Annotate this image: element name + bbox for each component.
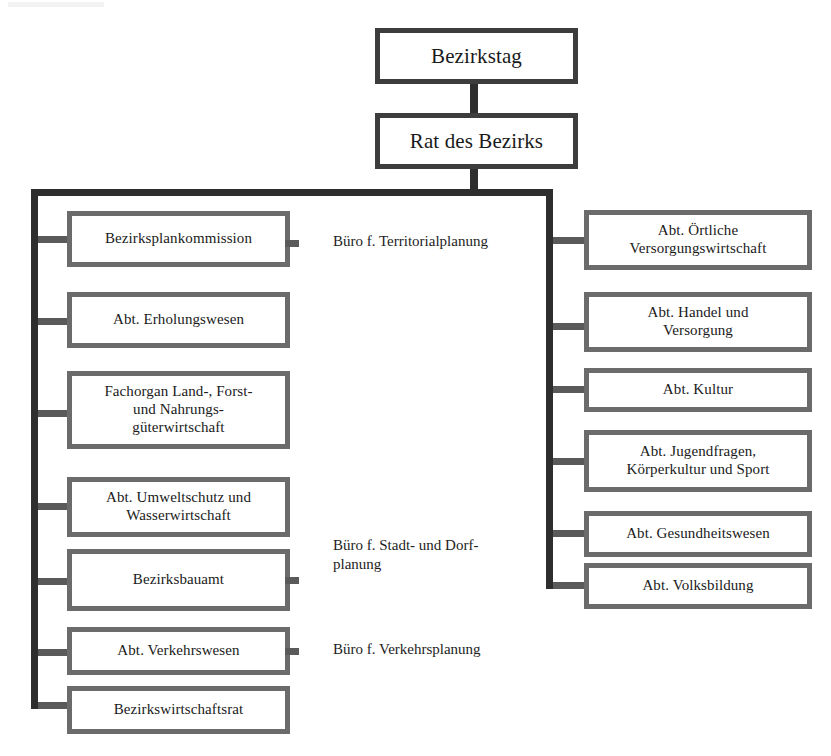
node-abt-erholungswesen[interactable]: Abt. Erholungswesen xyxy=(67,292,290,348)
node-abt-oertliche-versorgungswirtschaft[interactable]: Abt. Örtliche Versorgungswirtschaft xyxy=(584,210,812,270)
node-fachorgan-land-forst[interactable]: Fachorgan Land-, Forst- und Nahrungs- gü… xyxy=(67,371,290,449)
connector-left-3 xyxy=(38,410,70,417)
bus-horizontal xyxy=(31,189,553,196)
node-rat-des-bezirks-label: Rat des Bezirks xyxy=(404,129,549,154)
node-abt-oertliche-versorgungswirtschaft-label: Abt. Örtliche Versorgungswirtschaft xyxy=(624,222,773,257)
node-abt-volksbildung[interactable]: Abt. Volksbildung xyxy=(584,563,812,609)
org-chart-canvas: Bezirkstag Rat des Bezirks Bezirksplanko… xyxy=(0,0,831,756)
connector-right-6 xyxy=(553,582,585,589)
label-buero-verkehrsplanung: Büro f. Verkehrsplanung xyxy=(333,640,543,659)
connector-right-3 xyxy=(553,386,585,393)
connector-bezirkstag-to-rat xyxy=(470,84,478,114)
node-abt-volksbildung-label: Abt. Volksbildung xyxy=(636,577,759,595)
node-abt-gesundheitswesen-label: Abt. Gesundheitswesen xyxy=(620,525,776,543)
node-abt-verkehrswesen[interactable]: Abt. Verkehrswesen xyxy=(67,627,290,675)
connector-stub-stadtplanung xyxy=(285,577,299,584)
connector-right-1 xyxy=(553,237,585,244)
node-bezirkswirtschaftsrat-label: Bezirkswirtschaftsrat xyxy=(108,701,250,719)
node-bezirksbauamt-label: Bezirksbauamt xyxy=(127,571,230,589)
node-bezirkstag[interactable]: Bezirkstag xyxy=(375,28,578,84)
connector-left-7 xyxy=(38,702,70,709)
connector-right-5 xyxy=(553,530,585,537)
connector-left-4 xyxy=(38,503,70,510)
node-fachorgan-land-forst-label: Fachorgan Land-, Forst- und Nahrungs- gü… xyxy=(98,383,258,436)
connector-stub-verkehrsplanung xyxy=(285,648,299,655)
spine-right-vertical xyxy=(546,189,553,589)
connector-stub-territorialplanung xyxy=(285,240,299,247)
node-abt-kultur[interactable]: Abt. Kultur xyxy=(584,368,812,412)
node-rat-des-bezirks[interactable]: Rat des Bezirks xyxy=(375,113,578,169)
node-bezirksplankommission-label: Bezirksplankommission xyxy=(99,230,258,248)
node-abt-umweltschutz[interactable]: Abt. Umweltschutz und Wasserwirtschaft xyxy=(67,477,290,537)
node-abt-erholungswesen-label: Abt. Erholungswesen xyxy=(107,311,250,329)
connector-left-5 xyxy=(38,578,70,585)
connector-left-6 xyxy=(38,649,70,656)
node-abt-umweltschutz-label: Abt. Umweltschutz und Wasserwirtschaft xyxy=(100,489,257,524)
node-bezirkswirtschaftsrat[interactable]: Bezirkswirtschaftsrat xyxy=(67,686,290,734)
spine-left-vertical xyxy=(31,189,38,709)
connector-right-4 xyxy=(553,458,585,465)
node-abt-gesundheitswesen[interactable]: Abt. Gesundheitswesen xyxy=(584,511,812,557)
scan-artifact xyxy=(8,2,104,7)
node-abt-jugendfragen[interactable]: Abt. Jugendfragen, Körperkultur und Spor… xyxy=(584,430,812,492)
connector-right-2 xyxy=(553,323,585,330)
node-abt-verkehrswesen-label: Abt. Verkehrswesen xyxy=(111,642,245,660)
node-abt-kultur-label: Abt. Kultur xyxy=(657,381,739,399)
node-bezirkstag-label: Bezirkstag xyxy=(425,44,528,69)
node-bezirksplankommission[interactable]: Bezirksplankommission xyxy=(67,211,290,267)
node-bezirksbauamt[interactable]: Bezirksbauamt xyxy=(67,549,290,611)
label-buero-verkehrsplanung-text: Büro f. Verkehrsplanung xyxy=(333,641,481,657)
node-abt-handel-und-versorgung[interactable]: Abt. Handel und Versorgung xyxy=(584,292,812,352)
node-abt-jugendfragen-label: Abt. Jugendfragen, Körperkultur und Spor… xyxy=(620,443,775,478)
node-abt-handel-und-versorgung-label: Abt. Handel und Versorgung xyxy=(641,304,754,339)
connector-left-2 xyxy=(38,318,70,325)
connector-left-1 xyxy=(38,236,70,243)
label-buero-territorialplanung-text: Büro f. Territorialplanung xyxy=(333,233,488,249)
label-buero-stadt-und-dorfplanung: Büro f. Stadt- und Dorf- planung xyxy=(333,536,543,574)
label-buero-stadt-und-dorfplanung-text: Büro f. Stadt- und Dorf- planung xyxy=(333,537,478,572)
label-buero-territorialplanung: Büro f. Territorialplanung xyxy=(333,232,543,251)
